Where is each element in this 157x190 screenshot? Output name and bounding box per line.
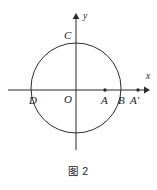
point-label-a: A	[101, 95, 108, 106]
point-dot-a	[103, 88, 106, 91]
point-label-a-prime: A′	[130, 95, 139, 106]
point-label-o: O	[64, 94, 72, 105]
figure-container: x y C D O A B A′ 图 2	[0, 0, 157, 190]
figure-caption: 图 2	[0, 163, 157, 178]
y-axis-label: y	[83, 12, 87, 22]
point-dot-a-prime	[136, 88, 139, 91]
point-label-b: B	[118, 95, 125, 106]
point-label-d: D	[29, 95, 37, 106]
x-axis-arrow-icon	[144, 87, 150, 94]
point-label-c: C	[64, 30, 71, 41]
x-axis-label: x	[146, 72, 150, 82]
y-axis-arrow-icon	[73, 13, 80, 19]
